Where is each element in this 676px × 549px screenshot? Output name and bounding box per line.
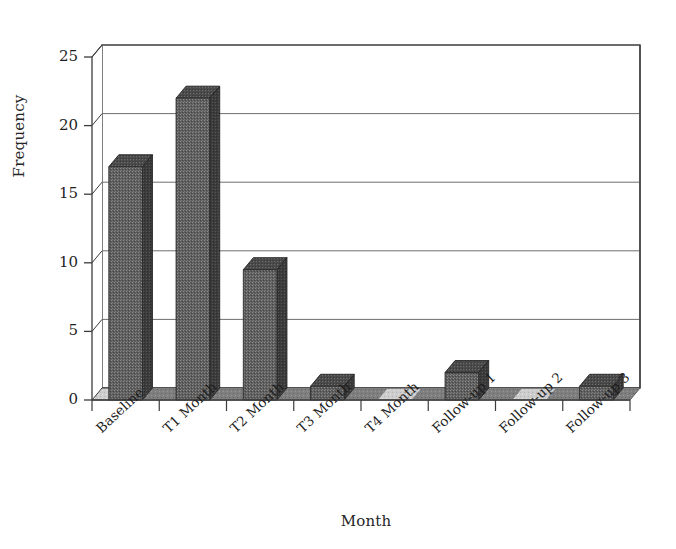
y-axis-tick-label: 20 <box>38 116 78 134</box>
bar-front-face <box>176 98 210 400</box>
chart-figure: Frequency Month <box>0 0 676 549</box>
chart-canvas <box>0 0 676 549</box>
bar-side-face <box>277 258 287 400</box>
y-axis-tick-label: 25 <box>38 47 78 65</box>
y-axis-tick-label: 0 <box>38 390 78 408</box>
plot-left-wall <box>92 45 102 400</box>
bar-side-face <box>210 86 220 400</box>
y-axis-tick-label: 5 <box>38 321 78 339</box>
plot-geometry <box>84 45 640 411</box>
y-axis-tick-label: 10 <box>38 253 78 271</box>
y-axis-tick-label: 15 <box>38 184 78 202</box>
bar-side-face <box>142 155 152 400</box>
bar-front-face <box>109 167 143 400</box>
